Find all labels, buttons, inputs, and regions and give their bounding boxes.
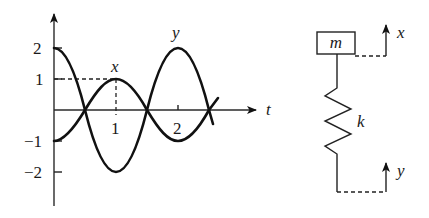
time-axis-label: t <box>266 100 272 119</box>
spring-label: k <box>357 112 365 131</box>
response-graph: 2 1 −1 −2 1 2 t x y <box>24 14 272 206</box>
y-displacement-label: y <box>395 161 405 180</box>
curve-x-label: x <box>110 57 119 76</box>
figure: 2 1 −1 −2 1 2 t x y m k x y <box>0 0 429 218</box>
x-displacement-label: x <box>396 23 405 42</box>
tick-label-1: 1 <box>35 70 44 89</box>
mass-label: m <box>330 33 342 52</box>
spring <box>325 54 351 192</box>
tick-label-minus-1: −1 <box>24 132 42 151</box>
tick-label-minus-2: −2 <box>24 163 42 182</box>
tick-label-t-2: 2 <box>173 119 182 138</box>
tick-label-t-1: 1 <box>111 119 120 138</box>
mass-spring-diagram: m k x y <box>317 23 405 192</box>
curve-y-label: y <box>170 23 180 42</box>
tick-label-2: 2 <box>33 39 42 58</box>
